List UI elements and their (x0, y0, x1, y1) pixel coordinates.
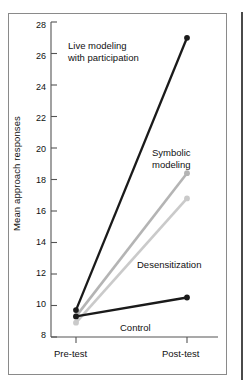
annotation-live-modeling: Live modeling with participation (68, 40, 139, 63)
annotation-symbolic-modeling-line1: Symbolic (152, 147, 191, 159)
live-modeling-point-posttest (184, 35, 190, 41)
series-symbolic-modeling (73, 170, 190, 319)
annotation-symbolic-modeling-line2: modeling (152, 159, 191, 171)
symbolic-modeling-point-posttest (184, 170, 190, 176)
control-point-posttest (184, 295, 190, 301)
control-line (76, 298, 187, 317)
axis-lines (51, 22, 218, 337)
x-tick-label-posttest: Post-test (162, 348, 200, 359)
live-modeling-point-pretest (73, 307, 79, 313)
x-tick-label-pretest: Pre-test (54, 348, 87, 359)
series-live-modeling (73, 35, 190, 313)
annotation-live-modeling-line2: with participation (68, 52, 139, 64)
annotation-symbolic-modeling: Symbolic modeling (152, 147, 191, 170)
y-axis-ticks (51, 22, 57, 337)
desensitization-point-pretest (73, 320, 79, 326)
annotation-control: Control (120, 322, 151, 334)
annotation-desensitization: Desensitization (137, 259, 201, 271)
symbolic-modeling-line (76, 173, 187, 316)
annotation-live-modeling-line1: Live modeling (68, 40, 139, 52)
desensitization-point-posttest (184, 196, 190, 202)
x-axis-ticks (76, 337, 187, 343)
control-point-pretest (73, 314, 79, 320)
